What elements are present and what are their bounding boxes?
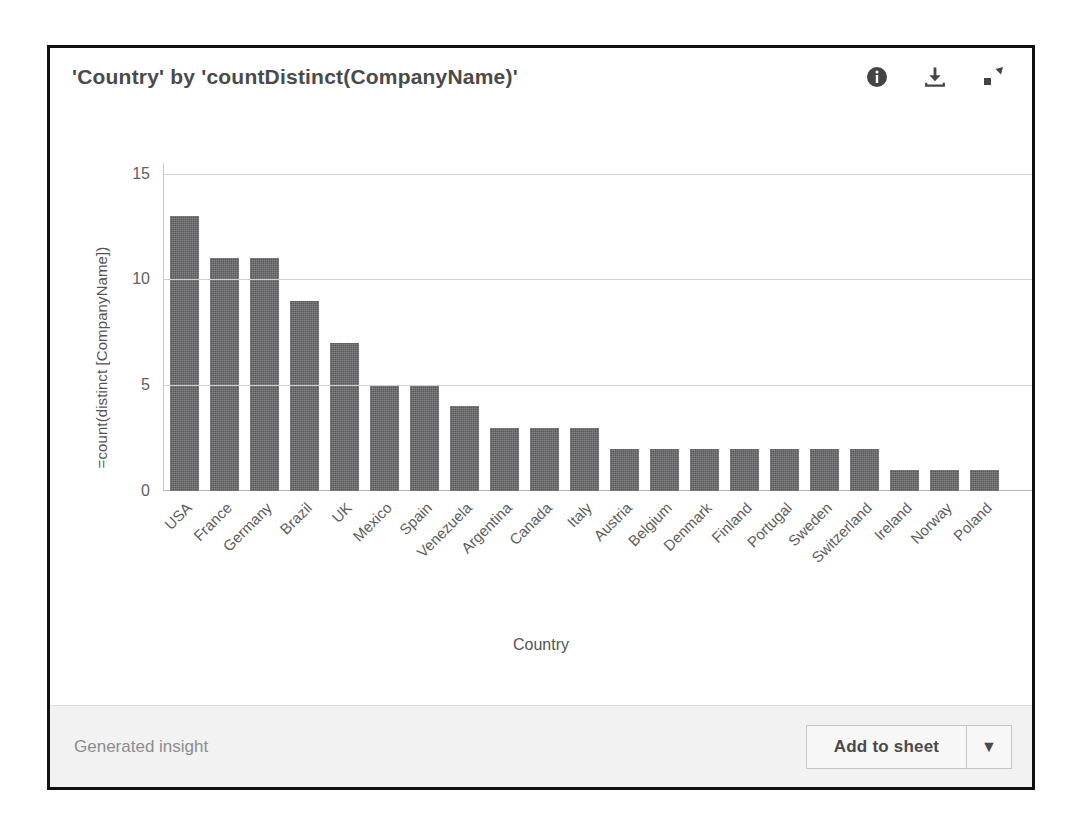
- bar[interactable]: [570, 428, 599, 491]
- gridline: [163, 174, 1035, 175]
- bar[interactable]: [610, 449, 639, 491]
- bar[interactable]: [330, 343, 359, 491]
- plot-area: 051015USAFranceGermanyBrazilUKMexicoSpai…: [163, 163, 1003, 491]
- gridline: [163, 385, 1035, 386]
- bar[interactable]: [530, 428, 559, 491]
- bar[interactable]: [810, 449, 839, 491]
- bar[interactable]: [290, 301, 319, 491]
- bar[interactable]: [930, 470, 959, 491]
- panel-header: 'Country' by 'countDistinct(CompanyName)…: [50, 48, 1032, 106]
- insight-panel: 'Country' by 'countDistinct(CompanyName)…: [47, 45, 1035, 790]
- bar[interactable]: [370, 385, 399, 491]
- bar[interactable]: [170, 216, 199, 491]
- bar[interactable]: [450, 406, 479, 491]
- y-axis-title: =count(distinct [CompanyName]): [93, 228, 110, 488]
- panel-title: 'Country' by 'countDistinct(CompanyName)…: [72, 65, 864, 89]
- expand-icon[interactable]: [980, 64, 1006, 90]
- generated-insight-label: Generated insight: [74, 737, 806, 757]
- bar[interactable]: [210, 258, 239, 491]
- panel-footer: Generated insight Add to sheet ▼: [50, 705, 1032, 787]
- bar[interactable]: [970, 470, 999, 491]
- y-tick-label: 10: [132, 270, 150, 288]
- x-tick-label: Ireland: [761, 499, 914, 652]
- bar-series: [163, 163, 1003, 491]
- x-tick-label: Norway: [801, 499, 954, 652]
- add-to-sheet-button[interactable]: Add to sheet: [806, 725, 966, 769]
- y-tick-label: 15: [132, 165, 150, 183]
- bar[interactable]: [650, 449, 679, 491]
- download-icon[interactable]: [922, 64, 948, 90]
- bar[interactable]: [770, 449, 799, 491]
- screen-root: 'Country' by 'countDistinct(CompanyName)…: [0, 0, 1084, 832]
- add-to-sheet-split-button: Add to sheet ▼: [806, 725, 1012, 769]
- x-axis-title: Country: [50, 636, 1032, 654]
- bar[interactable]: [890, 470, 919, 491]
- bar[interactable]: [250, 258, 279, 491]
- gridline: [163, 279, 1035, 280]
- bar[interactable]: [730, 449, 759, 491]
- chevron-down-icon[interactable]: ▼: [966, 725, 1012, 769]
- header-icon-group: [864, 64, 1006, 90]
- info-icon[interactable]: [864, 64, 890, 90]
- y-tick-label: 0: [141, 482, 150, 500]
- bar[interactable]: [850, 449, 879, 491]
- bar[interactable]: [690, 449, 719, 491]
- bar[interactable]: [410, 385, 439, 491]
- bar[interactable]: [490, 428, 519, 491]
- x-tick-label: Poland: [841, 499, 994, 652]
- y-tick-label: 5: [141, 376, 150, 394]
- chart-canvas: =count(distinct [CompanyName]) 051015USA…: [50, 106, 1032, 705]
